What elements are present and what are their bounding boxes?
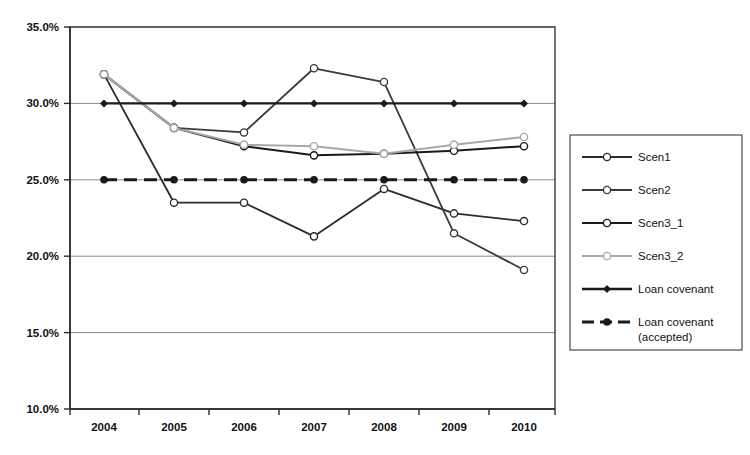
data-point-marker [520, 143, 527, 150]
legend-item-label: Loan covenant [638, 316, 714, 328]
data-point-marker [450, 230, 457, 237]
y-axis-tick-label: 15.0% [26, 327, 59, 339]
data-point-marker [170, 124, 177, 131]
data-point-marker [603, 318, 611, 326]
data-point-marker [310, 65, 317, 72]
data-point-marker [380, 176, 388, 184]
legend-item-label-line2: (accepted) [638, 331, 693, 343]
data-point-marker [310, 176, 318, 184]
y-axis-tick-label: 20.0% [26, 250, 59, 262]
y-axis-tick-label: 25.0% [26, 174, 59, 186]
legend-item-label: Scen3_1 [638, 217, 683, 229]
data-point-marker [240, 199, 247, 206]
data-point-marker [310, 233, 317, 240]
data-point-marker [240, 129, 247, 136]
x-axis-tick-label: 2009 [441, 421, 467, 433]
data-point-marker [450, 210, 457, 217]
legend-item-label: Scen2 [638, 184, 671, 196]
x-axis-tick-label: 2008 [371, 421, 397, 433]
data-point-marker [310, 152, 317, 159]
data-point-marker [603, 252, 610, 259]
data-point-marker [520, 133, 527, 140]
data-point-marker [240, 176, 248, 184]
data-point-marker [520, 176, 528, 184]
y-axis-tick-label: 10.0% [26, 403, 59, 415]
data-point-marker [240, 141, 247, 148]
data-point-marker [380, 150, 387, 157]
y-axis-tick-label: 30.0% [26, 97, 59, 109]
data-point-marker [450, 176, 458, 184]
data-point-marker [170, 176, 178, 184]
data-point-marker [100, 71, 107, 78]
data-point-marker [603, 219, 610, 226]
x-axis-tick-label: 2010 [511, 421, 537, 433]
data-point-marker [603, 186, 610, 193]
data-point-marker [380, 185, 387, 192]
x-axis-tick-label: 2007 [301, 421, 327, 433]
x-axis-tick-label: 2005 [161, 421, 187, 433]
legend: Scen1Scen2Scen3_1Scen3_2Loan covenantLoa… [570, 135, 742, 350]
data-point-marker [450, 141, 457, 148]
data-point-marker [520, 217, 527, 224]
chart-container: 10.0%15.0%20.0%25.0%30.0%35.0% 200420052… [0, 0, 750, 455]
data-point-marker [520, 266, 527, 273]
legend-item-label: Scen1 [638, 151, 671, 163]
data-point-marker [310, 143, 317, 150]
data-point-marker [380, 78, 387, 85]
data-point-marker [603, 153, 610, 160]
legend-item-label: Loan covenant [638, 283, 714, 295]
y-axis-tick-label: 35.0% [26, 21, 59, 33]
legend-item-label: Scen3_2 [638, 250, 683, 262]
x-axis-tick-label: 2006 [231, 421, 257, 433]
line-chart: 10.0%15.0%20.0%25.0%30.0%35.0% 200420052… [0, 0, 750, 455]
data-point-marker [170, 199, 177, 206]
x-axis-tick-label: 2004 [91, 421, 117, 433]
data-point-marker [100, 176, 108, 184]
